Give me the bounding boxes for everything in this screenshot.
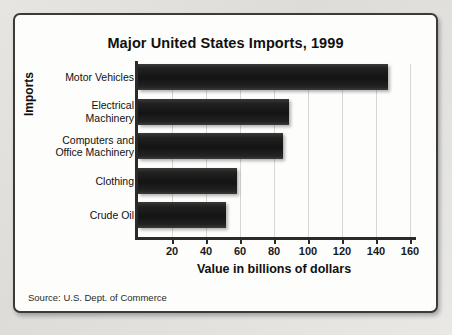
category-label: Computers andOffice Machinery xyxy=(4,134,134,159)
bar xyxy=(138,202,226,228)
x-axis-tick-label: 120 xyxy=(333,245,351,257)
bar-series xyxy=(138,64,410,237)
x-axis-tick-label: 140 xyxy=(367,245,385,257)
source-note: Source: U.S. Dept. of Commerce xyxy=(28,292,167,303)
bar-row xyxy=(138,133,283,159)
category-label: Clothing xyxy=(4,175,134,188)
bar xyxy=(138,64,388,90)
chart-figure: Major United States Imports, 1999 204060… xyxy=(0,0,452,335)
x-axis-tick-label: 20 xyxy=(166,245,178,257)
bar-row xyxy=(138,99,289,125)
bar-row xyxy=(138,168,237,194)
x-axis-tick xyxy=(274,238,276,244)
x-axis-tick xyxy=(308,238,310,244)
x-axis-tick-label: 40 xyxy=(200,245,212,257)
x-axis-tick xyxy=(240,238,242,244)
gridline xyxy=(410,64,411,237)
chart-title: Major United States Imports, 1999 xyxy=(15,35,436,51)
x-axis-tick xyxy=(206,238,208,244)
x-axis-title: Value in billions of dollars xyxy=(138,262,410,276)
x-axis-tick-label: 80 xyxy=(268,245,280,257)
x-axis-tick xyxy=(376,238,378,244)
x-axis-tick xyxy=(172,238,174,244)
x-axis-tick-label: 100 xyxy=(299,245,317,257)
bar-row xyxy=(138,202,226,228)
x-axis-tick xyxy=(342,238,344,244)
y-axis-title: Imports xyxy=(22,72,36,116)
bar xyxy=(138,99,289,125)
bar-row xyxy=(138,64,388,90)
x-axis-tick-label: 160 xyxy=(401,245,419,257)
x-axis-tick xyxy=(410,238,412,244)
x-axis-tick-label: 60 xyxy=(234,245,246,257)
bar xyxy=(138,133,283,159)
category-label: Crude Oil xyxy=(4,209,134,222)
bar xyxy=(138,168,237,194)
